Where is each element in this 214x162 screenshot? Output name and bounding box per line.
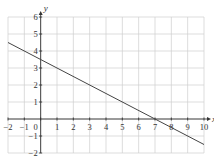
line-chart: −2−1012345678910−2−1123456xy	[0, 0, 214, 162]
x-tick-label: −2	[3, 122, 12, 132]
x-tick-label: 10	[200, 122, 209, 132]
y-tick-label: 3	[33, 63, 37, 73]
x-tick-label: 8	[169, 122, 173, 132]
y-tick-label: 1	[33, 97, 37, 107]
x-tick-label: 7	[153, 122, 157, 132]
y-tick-label: 6	[33, 12, 37, 22]
x-tick-label: 5	[120, 122, 124, 132]
axes	[8, 11, 211, 153]
x-tick-label: 3	[88, 122, 92, 132]
x-tick-label: 2	[71, 122, 75, 132]
tick-labels: −2−1012345678910−2−1123456xy	[3, 3, 214, 158]
x-axis-label: x	[211, 114, 214, 124]
x-tick-label: 1	[55, 122, 59, 132]
x-tick-label: 4	[104, 122, 109, 132]
y-tick-label: −2	[29, 148, 38, 158]
y-axis-arrow-icon	[39, 11, 43, 15]
y-tick-label: 5	[33, 29, 37, 39]
x-axis-arrow-icon	[207, 117, 211, 121]
y-tick-label: −1	[29, 131, 38, 141]
y-axis-label: y	[43, 3, 48, 13]
y-tick-label: 2	[33, 80, 37, 90]
x-tick-label: −1	[20, 122, 29, 132]
x-tick-label: 6	[137, 122, 141, 132]
x-tick-label: 9	[186, 122, 190, 132]
y-tick-label: 4	[33, 46, 38, 56]
